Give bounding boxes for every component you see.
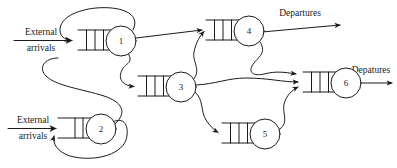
server-node-1-label: 1 (119, 36, 124, 46)
server-node-6-label: 6 (344, 78, 349, 88)
edge-node-3-to-node-6 (196, 78, 298, 85)
queue-station-2: 2 (58, 114, 116, 144)
departures-top-label: Departures (279, 8, 321, 18)
server-node-5-label: 5 (263, 129, 268, 139)
edge-node-5-to-node-6 (278, 87, 298, 130)
edge-node-1-to-node-4 (136, 30, 202, 38)
edge-node-3-to-node-5 (195, 92, 218, 133)
queue-station-4: 4 (206, 16, 264, 46)
external-arrivals-top-label-line2: arrivals (27, 43, 56, 53)
external-arrivals-bottom-label-line2: arrivals (19, 131, 48, 141)
edge-node-4-to-node-6 (251, 42, 296, 75)
server-node-2-label: 2 (99, 124, 104, 134)
external-arrivals-bottom-label-line1: External (17, 115, 50, 125)
diagram-canvas: External arrivals External arrivals Depa… (0, 0, 397, 168)
edge-node-3-to-node-4 (193, 32, 204, 81)
queue-station-5: 5 (222, 119, 280, 149)
edge-node-2-to-node-3-segment (42, 58, 122, 124)
external-arrivals-bottom-group: External arrivals (8, 115, 56, 141)
server-node-3-label: 3 (179, 82, 184, 92)
server-node-4-label: 4 (247, 26, 252, 36)
edge-node-1-to-node-3 (120, 53, 134, 87)
external-arrivals-top-group: External arrivals (14, 27, 72, 53)
external-arrivals-top-label-line1: External (25, 27, 58, 37)
departures-top-group: Departures (262, 8, 340, 32)
queue-station-3: 3 (138, 72, 196, 102)
edge-node-4-to-departures (262, 25, 340, 32)
queueing-network-diagram: External arrivals External arrivals Depa… (0, 0, 397, 168)
queue-station-6: 6 (303, 68, 361, 98)
queue-station-1: 1 (78, 26, 136, 56)
